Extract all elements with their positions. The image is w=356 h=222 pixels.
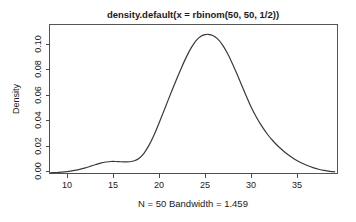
- density-plot-page: density.default(x = rbinom(50, 50, 1/2))…: [0, 0, 356, 222]
- y-tick-label-0: 0.00: [33, 162, 43, 180]
- y-tick-label-1: 0.02: [33, 137, 43, 155]
- x-tick-label-3: 25: [200, 180, 210, 190]
- x-tick-label-4: 30: [246, 180, 256, 190]
- y-axis-title: Density: [11, 83, 21, 114]
- density-plot-figure: density.default(x = rbinom(50, 50, 1/2))…: [0, 0, 356, 222]
- x-tick-label-5: 35: [292, 180, 302, 190]
- chart-title: density.default(x = rbinom(50, 50, 1/2)): [107, 9, 279, 20]
- plot-background: [0, 0, 356, 222]
- x-tick-label-2: 20: [154, 180, 164, 190]
- chart-subtitle: N = 50 Bandwidth = 1.459: [138, 198, 248, 209]
- y-tick-label-3: 0.06: [33, 86, 43, 104]
- y-tick-label-2: 0.04: [33, 111, 43, 129]
- x-tick-label-1: 15: [108, 180, 118, 190]
- x-tick-label-0: 10: [62, 180, 72, 190]
- y-tick-label-5: 0.10: [33, 35, 43, 53]
- y-tick-label-4: 0.08: [33, 60, 43, 78]
